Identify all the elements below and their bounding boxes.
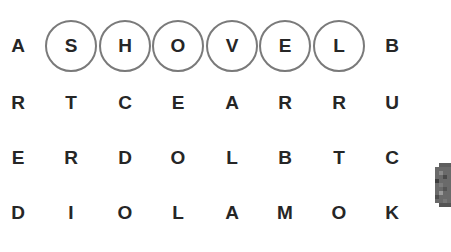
letter-cell-selected[interactable]: E — [259, 20, 311, 72]
letter-cell[interactable]: E — [0, 132, 44, 184]
letter-cell[interactable]: O — [152, 132, 204, 184]
letter-cell[interactable]: L — [206, 132, 258, 184]
letter-cell[interactable]: L — [152, 187, 204, 239]
letter-cell[interactable]: R — [313, 77, 365, 129]
letter-cell[interactable]: A — [0, 20, 44, 72]
letter-cell[interactable]: C — [366, 132, 418, 184]
letter-cell[interactable]: B — [366, 20, 418, 72]
letter-cell-selected[interactable]: S — [45, 20, 97, 72]
letter-cell[interactable]: E — [152, 77, 204, 129]
letter-cell[interactable]: T — [45, 77, 97, 129]
letter-cell-selected[interactable]: L — [313, 20, 365, 72]
letter-cell[interactable]: D — [0, 187, 44, 239]
pixelated-stone-icon — [435, 163, 451, 207]
letter-cell[interactable]: U — [366, 77, 418, 129]
letter-cell-selected[interactable]: O — [152, 20, 204, 72]
letter-cell[interactable]: I — [45, 187, 97, 239]
letter-cell-selected[interactable]: V — [206, 20, 258, 72]
letter-cell[interactable]: K — [366, 187, 418, 239]
letter-cell[interactable]: R — [0, 77, 44, 129]
letter-cell[interactable]: T — [313, 132, 365, 184]
letter-cell[interactable]: R — [259, 77, 311, 129]
letter-cell[interactable]: B — [259, 132, 311, 184]
letter-cell[interactable]: D — [99, 132, 151, 184]
letter-cell[interactable]: R — [45, 132, 97, 184]
letter-cell[interactable]: A — [206, 77, 258, 129]
letter-cell[interactable]: O — [313, 187, 365, 239]
letter-cell[interactable]: C — [99, 77, 151, 129]
letter-cell[interactable]: O — [99, 187, 151, 239]
letter-cell[interactable]: M — [259, 187, 311, 239]
letter-cell[interactable]: A — [206, 187, 258, 239]
letter-cell-selected[interactable]: H — [99, 20, 151, 72]
